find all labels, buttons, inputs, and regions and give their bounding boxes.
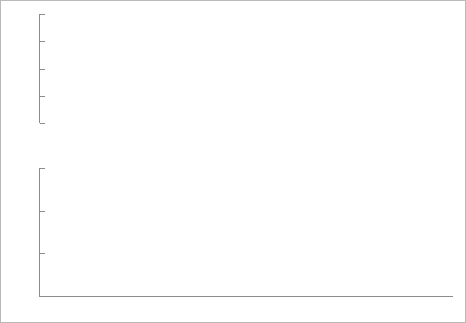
bottom-panel [1, 1, 453, 297]
top-panel-y-ticks [40, 15, 45, 124]
chart-figure [0, 0, 466, 323]
chart-canvas [1, 1, 466, 323]
bottom-panel-y-ticks [40, 169, 45, 297]
top-panel [40, 14, 45, 123]
